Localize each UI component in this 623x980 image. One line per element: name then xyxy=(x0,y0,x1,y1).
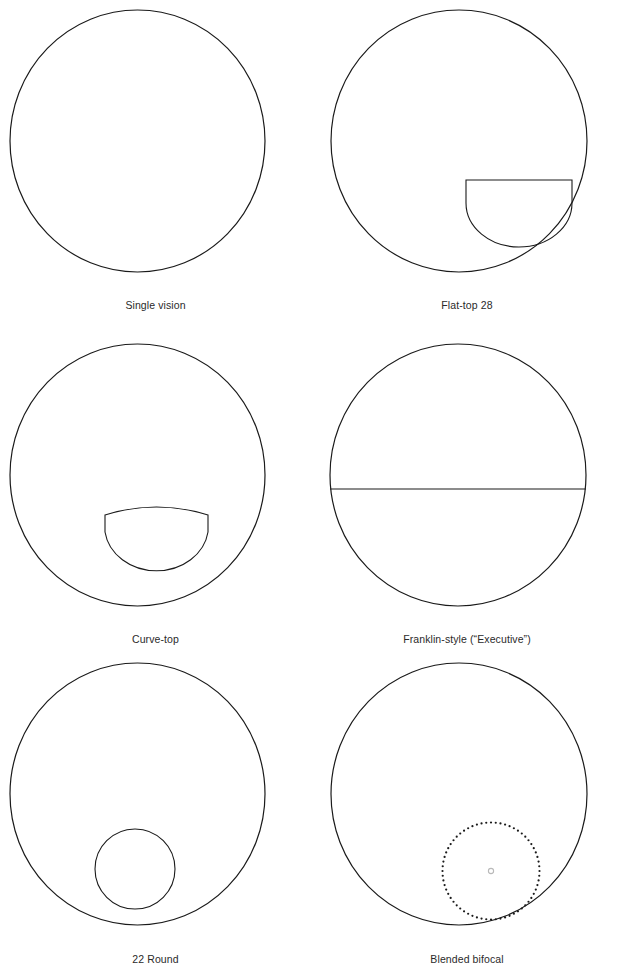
blended-ring-dot xyxy=(499,822,501,824)
blended-ring-dot xyxy=(443,884,445,886)
blended-ring-dot xyxy=(517,910,519,912)
blended-ring-dot xyxy=(536,856,538,858)
blended-ring-dot xyxy=(527,839,529,841)
lens-outline xyxy=(10,663,265,925)
blended-ring-dot xyxy=(535,888,537,890)
blended-ring-dot xyxy=(521,907,523,909)
lens-diagram-flat-top-28 xyxy=(311,0,623,290)
blended-ring-dot xyxy=(508,825,510,827)
blended-ring-dot xyxy=(538,865,540,867)
lens-caption-curve-top: Curve-top xyxy=(132,633,179,646)
lens-caption-single-vision: Single vision xyxy=(125,299,185,312)
blended-ring-dot xyxy=(533,847,535,849)
blended-ring-dot xyxy=(452,839,454,841)
blended-ring-dot xyxy=(456,904,458,906)
blended-ring-dot xyxy=(495,822,497,824)
blended-ring-dot xyxy=(480,917,482,919)
curve-top-segment xyxy=(105,507,208,571)
blended-ring-dot xyxy=(442,875,444,877)
blended-ring-dot xyxy=(445,888,447,890)
blended-ring-dot xyxy=(467,827,469,829)
lens-diagram-franklin-style xyxy=(311,327,623,624)
blended-ring-dot xyxy=(450,843,452,845)
blended-ring-dot xyxy=(480,822,482,824)
lens-outline xyxy=(331,10,587,272)
round-22-segment xyxy=(95,829,175,909)
lens-diagram-curve-top xyxy=(0,327,311,624)
lens-style-figure-grid: Single vision Flat-top 28 Curve-top Fran… xyxy=(0,0,623,980)
lens-panel-blended-bifocal: Blended bifocal xyxy=(311,654,623,980)
blended-ring-dot xyxy=(471,825,473,827)
lens-diagram-22-round xyxy=(0,654,311,944)
lens-panel-franklin-style: Franklin-style (“Executive”) xyxy=(311,327,623,654)
flat-top-segment xyxy=(466,180,572,247)
lens-panel-curve-top: Curve-top xyxy=(0,327,311,654)
lens-outline xyxy=(330,344,586,606)
lens-caption-flat-top-28: Flat-top 28 xyxy=(441,299,492,312)
blended-ring-dot xyxy=(463,830,465,832)
blended-ring-dot xyxy=(476,916,478,918)
blended-ring-dot xyxy=(508,915,510,917)
blended-ring-dot xyxy=(537,860,539,862)
blended-ring-dot xyxy=(452,901,454,903)
blended-ring-dot xyxy=(463,910,465,912)
blended-ring-dot xyxy=(450,897,452,899)
blended-center-marker xyxy=(488,868,493,873)
lens-outline xyxy=(10,10,265,272)
blended-ring-dot xyxy=(504,916,506,918)
blended-ring-dot xyxy=(538,870,540,872)
blended-segment-dotted-ring xyxy=(441,821,540,920)
blended-ring-dot xyxy=(445,851,447,853)
blended-ring-dot xyxy=(485,918,487,920)
lens-diagram-single-vision xyxy=(0,0,311,290)
lens-caption-franklin-style: Franklin-style (“Executive”) xyxy=(403,633,531,646)
lens-diagram-blended-bifocal xyxy=(311,654,623,944)
blended-ring-dot xyxy=(471,915,473,917)
blended-ring-dot xyxy=(485,822,487,824)
blended-ring-dot xyxy=(513,827,515,829)
lens-panel-22-round: 22 Round xyxy=(0,654,311,980)
blended-ring-dot xyxy=(517,830,519,832)
blended-ring-dot xyxy=(447,847,449,849)
lens-outline xyxy=(10,344,265,606)
blended-ring-dot xyxy=(530,843,532,845)
lens-panel-single-vision: Single vision xyxy=(0,0,311,327)
blended-ring-dot xyxy=(495,918,497,920)
blended-ring-dot xyxy=(524,904,526,906)
blended-ring-dot xyxy=(456,836,458,838)
blended-ring-dot xyxy=(538,875,540,877)
blended-ring-dot xyxy=(513,913,515,915)
blended-ring-dot xyxy=(459,907,461,909)
lens-panel-flat-top-28: Flat-top 28 xyxy=(311,0,623,327)
blended-ring-dot xyxy=(524,836,526,838)
blended-ring-dot xyxy=(443,856,445,858)
blended-ring-dot xyxy=(533,893,535,895)
blended-ring-dot xyxy=(536,884,538,886)
blended-ring-dot xyxy=(442,879,444,881)
blended-ring-dot xyxy=(490,821,492,823)
blended-ring-dot xyxy=(504,823,506,825)
blended-ring-dot xyxy=(441,870,443,872)
blended-ring-dot xyxy=(521,832,523,834)
blended-ring-dot xyxy=(459,832,461,834)
blended-ring-dot xyxy=(442,865,444,867)
blended-ring-dot xyxy=(490,918,492,920)
blended-ring-dot xyxy=(467,913,469,915)
blended-ring-dot xyxy=(530,897,532,899)
blended-ring-dot xyxy=(447,893,449,895)
blended-ring-dot xyxy=(527,901,529,903)
blended-ring-dot xyxy=(476,823,478,825)
blended-ring-dot xyxy=(537,879,539,881)
blended-ring-dot xyxy=(442,860,444,862)
lens-outline xyxy=(331,663,587,925)
blended-ring-dot xyxy=(499,917,501,919)
lens-caption-blended-bifocal: Blended bifocal xyxy=(430,953,503,966)
blended-ring-dot xyxy=(535,851,537,853)
lens-caption-22-round: 22 Round xyxy=(132,953,178,966)
